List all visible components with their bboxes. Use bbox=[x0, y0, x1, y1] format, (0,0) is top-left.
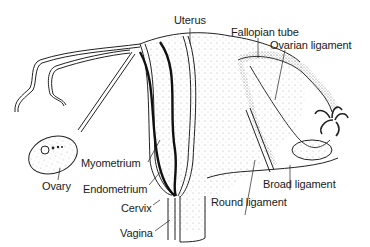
label-round-ligament: Round ligament bbox=[211, 196, 287, 208]
label-uterus: Uterus bbox=[174, 14, 206, 26]
ovary-shape bbox=[23, 130, 82, 181]
label-cervix: Cervix bbox=[121, 202, 152, 214]
label-fallopian-tube: Fallopian tube bbox=[231, 26, 299, 38]
label-ovarian-ligament: Ovarian ligament bbox=[270, 39, 352, 51]
left-fallopian-tube bbox=[15, 44, 140, 112]
label-ovary: Ovary bbox=[42, 180, 71, 192]
label-broad-ligament: Broad ligament bbox=[263, 178, 336, 190]
right-ovary-shape bbox=[292, 140, 332, 160]
label-endometrium: Endometrium bbox=[83, 183, 147, 195]
reproductive-anatomy-illustration bbox=[0, 0, 370, 247]
label-vagina: Vagina bbox=[120, 227, 153, 239]
left-ovarian-ligament bbox=[78, 52, 135, 132]
label-myometrium: Myometrium bbox=[81, 157, 141, 169]
